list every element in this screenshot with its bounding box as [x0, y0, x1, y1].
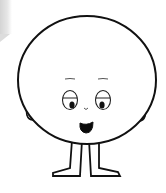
right-leg-icon [89, 140, 120, 176]
left-eye-icon [63, 91, 78, 110]
right-eyebrow-icon [98, 79, 108, 80]
legs [53, 140, 120, 176]
cartoon-character [0, 0, 166, 193]
left-eyebrow-icon [65, 79, 75, 80]
left-leg-icon [53, 140, 82, 176]
right-eye-icon [96, 91, 111, 110]
